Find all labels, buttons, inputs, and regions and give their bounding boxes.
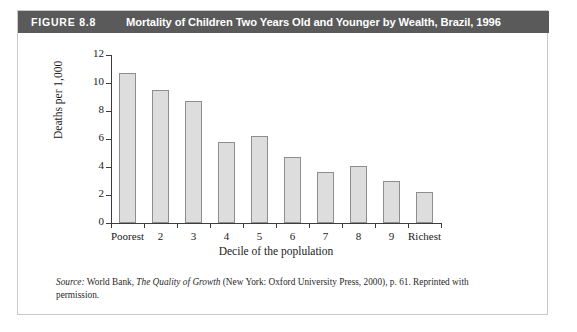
plot-area: 024681012 Poorest23456789Richest: [111, 55, 441, 223]
bar-3: [185, 101, 202, 223]
x-tick-label-9: 9: [389, 230, 395, 242]
y-tick-mark: [106, 167, 111, 168]
figure-number-label: FIGURE 8.8: [18, 16, 126, 28]
x-tick-mark: [309, 223, 310, 228]
x-tick-label-8: 8: [356, 230, 362, 242]
figure-frame: FIGURE 8.8 Mortality of Children Two Yea…: [17, 10, 548, 315]
y-tick-mark: [106, 111, 111, 112]
x-tick-mark: [375, 223, 376, 228]
x-tick-label-richest: Richest: [408, 230, 441, 242]
source-work-title: The Quality of Growth: [136, 277, 220, 287]
bar-2: [152, 90, 169, 223]
bar-4: [218, 142, 235, 223]
source-note: Source: World Bank, The Quality of Growt…: [56, 276, 511, 301]
x-tick-label-4: 4: [224, 230, 230, 242]
x-tick-label-6: 6: [290, 230, 296, 242]
bar-9: [383, 181, 400, 223]
y-tick-label: 2: [99, 187, 105, 199]
y-tick-label: 0: [99, 215, 105, 227]
x-tick-mark: [210, 223, 211, 228]
x-tick-mark: [408, 223, 409, 228]
x-tick-mark: [441, 223, 442, 228]
bar-8: [350, 166, 367, 223]
bar-5: [251, 136, 268, 223]
x-tick-label-7: 7: [323, 230, 329, 242]
figure-header: FIGURE 8.8 Mortality of Children Two Yea…: [18, 11, 549, 33]
x-tick-label-5: 5: [257, 230, 263, 242]
y-tick-label: 6: [99, 131, 105, 143]
y-tick-mark: [106, 55, 111, 56]
source-publisher: World Bank,: [85, 277, 137, 287]
y-tick-mark: [106, 139, 111, 140]
chart-region: Deaths per 1,000 024681012 Poorest234567…: [18, 33, 549, 316]
source-label: Source:: [56, 277, 85, 287]
x-axis-title: Decile of the poplulation: [111, 245, 441, 257]
x-tick-label-poorest: Poorest: [111, 230, 144, 242]
figure-title: Mortality of Children Two Years Old and …: [126, 16, 501, 28]
bar-poorest: [119, 73, 136, 223]
bar-7: [317, 172, 334, 223]
x-tick-label-2: 2: [158, 230, 164, 242]
bar-6: [284, 157, 301, 223]
x-tick-mark: [342, 223, 343, 228]
x-tick-label-3: 3: [191, 230, 197, 242]
x-tick-mark: [144, 223, 145, 228]
bar-richest: [416, 192, 433, 223]
x-tick-mark: [276, 223, 277, 228]
y-axis-title: Deaths per 1,000: [52, 61, 64, 139]
x-tick-mark: [177, 223, 178, 228]
y-tick-label: 10: [93, 75, 104, 87]
y-axis-line: [111, 55, 112, 223]
y-tick-mark: [106, 83, 111, 84]
x-tick-mark: [243, 223, 244, 228]
x-tick-mark: [111, 223, 112, 228]
y-tick-label: 4: [99, 159, 105, 171]
y-tick-label: 8: [99, 103, 105, 115]
y-tick-label: 12: [93, 47, 104, 59]
y-tick-mark: [106, 195, 111, 196]
